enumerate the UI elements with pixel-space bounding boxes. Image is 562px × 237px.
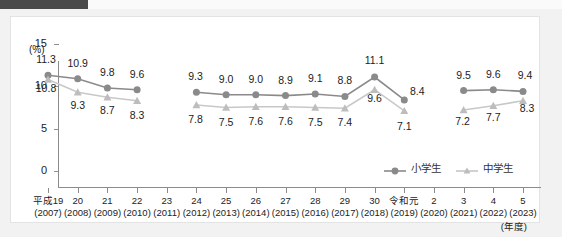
x-tick — [523, 188, 524, 193]
y-tick — [54, 171, 59, 172]
top-strip — [0, 0, 562, 9]
data-value-label: 9.6 — [476, 69, 510, 80]
x-tick — [464, 188, 465, 193]
y-tick — [54, 129, 59, 130]
data-value-label: 9.6 — [120, 69, 154, 80]
x-tick — [107, 188, 108, 193]
x-tick — [137, 188, 138, 193]
data-value-label: 7.2 — [446, 116, 480, 127]
x-axis-unit-label: (年度) — [501, 219, 527, 233]
legend-label-junior-high: 中学生 — [483, 160, 513, 175]
data-value-label: 7.4 — [328, 117, 362, 128]
y-tick-label: 0 — [17, 165, 47, 176]
x-tick — [167, 188, 168, 193]
data-value-label: 8.3 — [510, 103, 544, 114]
y-axis-line — [58, 61, 59, 188]
x-tick-label-era: 5 — [504, 195, 542, 206]
triangle-marker-icon — [455, 162, 479, 172]
chart-legend: 小学生 中学生 — [383, 160, 513, 174]
x-tick-label-year: (2023) — [504, 207, 542, 218]
y-tick-label: 5 — [17, 123, 47, 134]
data-value-label: 9.6 — [358, 93, 392, 104]
legend-item-elementary[interactable]: 小学生 — [383, 160, 441, 175]
data-value-label: 7.1 — [387, 121, 421, 132]
data-value-label: 8.4 — [400, 86, 434, 97]
x-tick — [48, 188, 49, 193]
data-value-label: 8.3 — [120, 110, 154, 121]
x-tick — [256, 188, 257, 193]
data-value-label: 9.4 — [508, 70, 542, 81]
x-axis-line — [58, 187, 541, 188]
circle-marker-icon — [383, 162, 407, 172]
chart-card: (%) 051015 平成19(2007)20(2008)21(2009)22(… — [10, 16, 540, 223]
x-tick — [78, 188, 79, 193]
legend-item-junior-high[interactable]: 中学生 — [455, 160, 513, 175]
data-value-label: 10.8 — [29, 83, 63, 94]
legend-label-elementary: 小学生 — [411, 160, 441, 175]
x-tick — [493, 188, 494, 193]
top-strip-dark-block — [0, 0, 88, 9]
data-value-label: 7.7 — [476, 112, 510, 123]
data-value-label: 11.1 — [358, 55, 392, 66]
x-tick — [404, 188, 405, 193]
x-tick — [434, 188, 435, 193]
x-tick — [315, 188, 316, 193]
x-tick — [196, 188, 197, 193]
x-tick — [375, 188, 376, 193]
data-value-label: 7.8 — [178, 114, 212, 125]
x-tick — [226, 188, 227, 193]
y-tick-label: 15 — [17, 38, 47, 49]
top-strip-faint-text — [300, 0, 550, 8]
x-tick — [286, 188, 287, 193]
data-value-label: 11.3 — [29, 54, 63, 65]
data-value-label: 9.3 — [178, 71, 212, 82]
y-tick — [54, 44, 59, 45]
x-tick — [345, 188, 346, 193]
data-value-label: 8.8 — [328, 75, 362, 86]
